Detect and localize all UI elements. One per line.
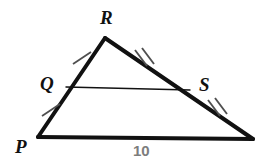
tick-mark-RS — [135, 48, 154, 66]
base-measure-label: 10 — [133, 143, 150, 158]
tick-mark-SE — [208, 98, 227, 116]
vertex-label-R: R — [100, 8, 113, 27]
vertex-label-P: P — [15, 137, 27, 156]
vertex-label-Q: Q — [40, 74, 54, 93]
segment-midsegment-QS — [66, 87, 190, 90]
vertex-label-S: S — [199, 75, 210, 94]
triangle-drawing — [0, 0, 257, 162]
geometry-figure: R Q S P 10 — [0, 0, 257, 162]
segment-side-PE — [38, 137, 253, 139]
